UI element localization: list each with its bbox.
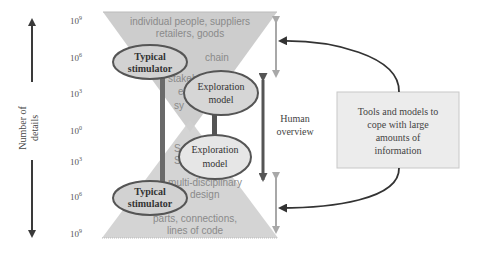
curve-arrow-bottom-icon <box>280 168 399 208</box>
svg-text:Exploration: Exploration <box>197 81 244 92</box>
svg-text:chain: chain <box>205 52 229 63</box>
svg-text:model: model <box>209 94 234 105</box>
connector-bar-left <box>160 68 165 196</box>
svg-text:106: 106 <box>70 52 82 63</box>
svg-text:103: 103 <box>70 88 82 99</box>
connector-bar-right <box>212 113 217 137</box>
axis-label: Number of details <box>17 106 40 150</box>
svg-text:Exploration: Exploration <box>191 144 238 155</box>
diagram-canvas: Number of details 109 106 103 100 103 10… <box>0 0 479 255</box>
curve-arrow-top-icon <box>280 41 399 92</box>
svg-text:parts, connections,: parts, connections, <box>153 213 237 224</box>
svg-text:Number of: Number of <box>17 106 28 150</box>
svg-text:design: design <box>190 189 219 200</box>
ellipse-typical-bottom: Typical stimulator <box>113 181 187 215</box>
svg-text:cope with large: cope with large <box>367 119 429 130</box>
svg-text:Typical: Typical <box>134 186 166 197</box>
axis-ticks: 109 106 103 100 103 106 109 <box>70 15 82 239</box>
human-overview-label: Human overview <box>276 113 314 137</box>
svg-text:model: model <box>203 158 228 169</box>
svg-text:overview: overview <box>276 126 314 137</box>
svg-text:109: 109 <box>70 228 82 239</box>
svg-text:sy: sy <box>174 100 184 111</box>
svg-text:stimulator: stimulator <box>128 198 173 209</box>
svg-text:lines of code: lines of code <box>167 225 224 236</box>
ellipse-typical-top: Typical stimulator <box>113 45 187 79</box>
svg-text:retailers, goods: retailers, goods <box>156 28 224 39</box>
svg-text:109: 109 <box>70 15 82 26</box>
svg-text:Tools and models to: Tools and models to <box>358 106 439 117</box>
svg-text:106: 106 <box>70 191 82 202</box>
tools-box: Tools and models to cope with large amou… <box>337 92 459 168</box>
svg-text:information: information <box>374 145 421 156</box>
svg-text:100: 100 <box>70 125 82 136</box>
svg-text:details: details <box>29 115 40 141</box>
ellipse-exploration-top: Exploration model <box>184 71 258 115</box>
svg-text:stimulator: stimulator <box>128 63 173 74</box>
svg-text:amounts of: amounts of <box>376 132 421 143</box>
svg-text:Typical: Typical <box>134 51 166 62</box>
svg-text:103: 103 <box>70 156 82 167</box>
ellipse-exploration-bottom: Exploration model <box>179 135 251 179</box>
svg-text:Human: Human <box>280 113 309 124</box>
svg-text:individual people, suppliers: individual people, suppliers <box>130 16 250 27</box>
